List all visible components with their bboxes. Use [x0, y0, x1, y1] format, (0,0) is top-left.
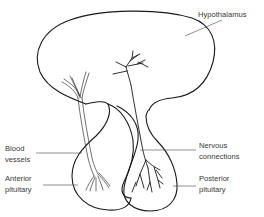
nerve-fibers-drawing: [113, 51, 163, 192]
hypothalamus-pituitary-diagram: Hypothalamus Blood vessels Nervous conne…: [0, 0, 264, 217]
blood-vessels-drawing: [62, 72, 110, 191]
label-posterior-pituitary-line1: Posterior: [199, 174, 230, 183]
posterior-lobe-outline: [117, 106, 177, 211]
label-nervous-connections-line1: Nervous: [199, 141, 227, 150]
label-anterior-pituitary-line1: Anterior: [5, 174, 32, 183]
hypothalamus-outline: [37, 11, 214, 110]
label-anterior-pituitary-line2: pituitary: [5, 185, 32, 194]
label-nervous-connections-line2: connections: [199, 152, 240, 161]
hypothalamus-leader: [185, 20, 222, 36]
label-hypothalamus: Hypothalamus: [198, 10, 247, 19]
label-posterior-pituitary-line2: pituitary: [199, 185, 226, 194]
label-blood-vessels-line2: vessels: [5, 155, 31, 164]
label-blood-vessels-line1: Blood: [5, 144, 24, 153]
anterior-lobe-inner-outline: [108, 104, 133, 198]
